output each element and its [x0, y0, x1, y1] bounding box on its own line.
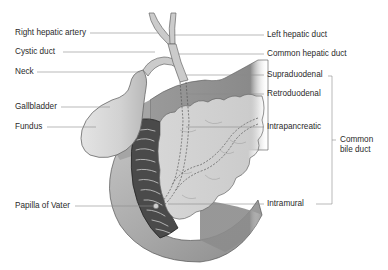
label-neck: Neck: [15, 67, 34, 77]
label-left-hepatic-duct: Left hepatic duct: [267, 30, 327, 40]
label-cystic-duct: Cystic duct: [15, 47, 55, 57]
label-papilla-of-vater: Papilla of Vater: [15, 201, 70, 211]
pancreas-shape: [158, 94, 264, 219]
label-retroduodenal: Retroduodenal: [267, 89, 321, 99]
label-intramural: Intramural: [267, 199, 304, 209]
anatomy-illustration: [0, 0, 388, 270]
left-hepatic-duct-shape: [169, 13, 176, 44]
label-fundus: Fundus: [15, 122, 42, 132]
label-intrapancreatic: Intrapancreatic: [267, 122, 321, 132]
papilla-of-vater-shape: [153, 203, 158, 208]
label-common-hepatic-duct: Common hepatic duct: [267, 49, 347, 59]
biliary-anatomy-diagram: Right hepatic artery Cystic duct Neck Ga…: [0, 0, 388, 270]
label-gallbladder: Gallbladder: [15, 102, 57, 112]
label-right-hepatic-artery: Right hepatic artery: [15, 28, 86, 38]
label-supraduodenal: Supraduodenal: [267, 70, 323, 80]
label-common-bile-duct: Common bile duct: [340, 135, 386, 155]
